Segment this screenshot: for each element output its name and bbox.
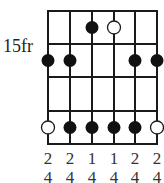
finger-dot (64, 121, 77, 134)
finger-number: 4 (85, 169, 99, 183)
open-note-dot (108, 21, 121, 34)
finger-number: 2 (128, 150, 142, 167)
finger-number: 4 (128, 169, 142, 183)
finger-dot (108, 121, 121, 134)
finger-dot (151, 54, 164, 67)
finger-number: 4 (41, 169, 55, 183)
finger-dot (129, 121, 142, 134)
finger-number: 2 (150, 150, 164, 167)
fret-position-label: 15fr (3, 37, 33, 55)
finger-dot (129, 54, 142, 67)
chord-diagram: 15fr 221122444444 (0, 0, 164, 183)
finger-number: 4 (150, 169, 164, 183)
finger-dot (42, 54, 55, 67)
finger-number: 2 (41, 150, 55, 167)
finger-number: 4 (63, 169, 77, 183)
open-note-dot (151, 121, 164, 134)
open-note-dot (42, 121, 55, 134)
finger-dot (64, 54, 77, 67)
finger-dot (86, 21, 99, 34)
finger-number: 1 (85, 150, 99, 167)
finger-number: 2 (63, 150, 77, 167)
finger-number: 4 (107, 169, 121, 183)
finger-dot (86, 121, 99, 134)
finger-number: 1 (107, 150, 121, 167)
